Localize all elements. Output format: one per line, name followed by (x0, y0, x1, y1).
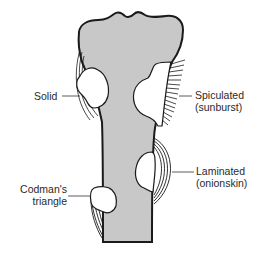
label-spiculated: Spiculated (sunburst) (195, 89, 244, 113)
label-codman: Codman's triangle (15, 183, 67, 207)
label-laminated-line2: (onionskin) (196, 177, 247, 189)
label-laminated: Laminated (onionskin) (196, 165, 247, 189)
label-laminated-line1: Laminated (196, 165, 247, 177)
label-spiculated-line2: (sunburst) (195, 101, 244, 113)
bone-diagram (0, 0, 255, 256)
label-codman-line1: Codman's (15, 183, 67, 195)
codman-lesion (90, 187, 116, 213)
label-codman-line2: triangle (15, 195, 67, 207)
solid-lesion (77, 68, 109, 108)
label-solid-text: Solid (34, 90, 57, 102)
label-solid: Solid (34, 90, 57, 102)
label-spiculated-line1: Spiculated (195, 89, 244, 101)
